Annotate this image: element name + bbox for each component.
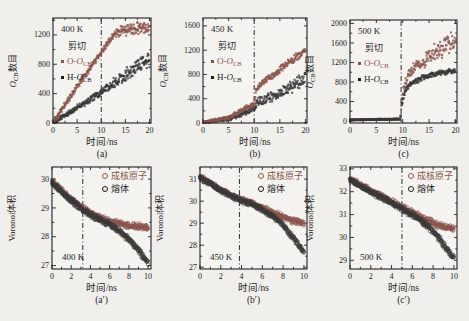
legend-item-label: 450 K [211,24,233,34]
x-axis-label: 时间/ns [200,280,307,294]
legend-item-label: 成核原子 [267,169,303,182]
legend-item-label: 剪切 [68,39,86,52]
panel-b: 05101520040080012001600 OCB数目 时间/ns (b) … [156,0,313,160]
panel-b-prime: 02468102728293031 Voronoi体积 时间/ns (b′) 成… [156,160,313,321]
svg-text:30: 30 [189,197,197,206]
legend-item: H-OCB [358,71,389,87]
x-axis-label: 时间/ns [52,280,151,294]
svg-text:29: 29 [41,204,49,213]
temperature-label: 500 K [360,252,382,262]
legend-item: O-OCB [358,55,389,71]
y-axis-label: Voronoi体积 [303,195,316,242]
legend-item: 成核原子 [258,169,303,182]
legend-item: 成核原子 [102,169,147,182]
legend-item-label: 熔体 [267,182,285,195]
panel-a-prime: 024681027282930 Voronoi体积 时间/ns (a′) 成核原… [0,160,156,321]
temperature-label: 400 K [62,252,84,262]
legend-item: 熔体 [258,182,303,195]
legend-item-label: 成核原子 [111,169,147,182]
y-axis-label: OCB数目 [6,54,19,87]
svg-text:31: 31 [339,210,347,219]
legend-item: O-OCB [61,53,92,69]
legend-item-label: 熔体 [111,182,129,195]
panel-caption: (a) [53,149,151,159]
panel-c-prime: 02468102930313233 Voronoi体积 时间/ns (c′) 成… [313,160,469,321]
panel-caption: (c′) [350,295,457,305]
svg-text:1600: 1600 [184,21,200,30]
panel-caption: (c) [350,149,457,159]
square-marker-icon [211,76,214,79]
svg-text:0: 0 [196,119,200,128]
legend-item: H-OCB [61,69,92,85]
legend-item-label: 成核原子 [417,169,453,182]
circle-marker-icon [258,173,264,179]
svg-text:30: 30 [339,233,347,242]
legend-item: 500 K [358,23,389,39]
x-axis-label: 时间/ns [350,134,457,148]
y-axis-label: OCB数目 [156,54,169,87]
figure: 0510152004008001200 OCB数目 时间/ns (a) 400 … [0,0,469,321]
panel-caption: (a′) [52,295,151,305]
legend: 400 K剪切O-OCBH-OCB [61,21,92,85]
circle-marker-icon [102,186,108,192]
temperature-label: 450 K [210,252,232,262]
x-axis-label: 时间/ns [53,134,151,148]
legend: 成核原子熔体 [258,169,303,195]
x-axis-label: 时间/ns [350,280,457,294]
legend-item-label: H-OCB [217,72,242,83]
panel-c: 051015200400800120016002000 OCB数目 时间/ns … [313,0,469,160]
legend-item: O-OCB [211,53,242,69]
svg-text:2000: 2000 [331,19,347,28]
circle-marker-icon [102,173,108,179]
svg-text:32: 32 [339,187,347,196]
svg-text:0: 0 [343,117,347,126]
legend-item-label: O-OCB [364,58,389,69]
svg-text:1200: 1200 [34,30,50,39]
svg-text:27: 27 [41,261,49,270]
square-marker-icon [358,62,361,65]
square-marker-icon [61,76,64,79]
svg-text:400: 400 [335,97,347,106]
legend: 成核原子熔体 [408,169,453,195]
svg-text:1200: 1200 [184,46,200,55]
legend: 450 K剪切O-OCBH-OCB [211,21,242,85]
svg-text:800: 800 [188,70,200,79]
legend-item-label: O-OCB [217,56,242,67]
svg-text:30: 30 [41,175,49,184]
legend: 成核原子熔体 [102,169,147,195]
legend-item: 450 K [211,21,242,37]
legend-item: 剪切 [61,37,92,53]
legend-item: H-OCB [211,69,242,85]
legend-item-label: O-OCB [67,56,92,67]
square-marker-icon [211,60,214,63]
y-axis-label: Voronoi体积 [153,195,166,242]
svg-text:28: 28 [189,241,197,250]
svg-text:29: 29 [339,256,347,265]
svg-text:400: 400 [38,89,50,98]
x-axis-label: 时间/ns [203,134,307,148]
y-axis-label: Voronoi体积 [5,195,18,242]
panel-caption: (b′) [200,295,307,305]
svg-text:29: 29 [189,219,197,228]
svg-text:31: 31 [189,175,197,184]
svg-text:800: 800 [38,60,50,69]
y-axis-label: OCB数目 [303,55,316,88]
svg-text:400: 400 [188,94,200,103]
panel-a: 0510152004008001200 OCB数目 时间/ns (a) 400 … [0,0,156,160]
legend-item-label: 500 K [358,26,380,36]
square-marker-icon [61,60,64,63]
circle-marker-icon [408,186,414,192]
circle-marker-icon [408,173,414,179]
legend-item: 剪切 [211,37,242,53]
legend: 500 K剪切O-OCBH-OCB [358,23,389,87]
panel-caption: (b) [203,149,307,159]
legend-item: 剪切 [358,39,389,55]
svg-text:1200: 1200 [331,58,347,67]
svg-text:800: 800 [335,78,347,87]
svg-text:33: 33 [339,164,347,173]
legend-item-label: 熔体 [417,182,435,195]
circle-marker-icon [258,186,264,192]
svg-text:28: 28 [41,232,49,241]
svg-text:27: 27 [189,263,197,272]
svg-text:1600: 1600 [331,39,347,48]
